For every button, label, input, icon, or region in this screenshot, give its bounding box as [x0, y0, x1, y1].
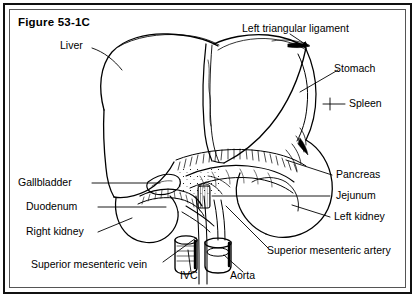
label-liver: Liver: [60, 40, 83, 51]
label-left-triangular-ligament: Left triangular ligament: [242, 23, 349, 34]
label-gallbladder: Gallbladder: [18, 177, 72, 188]
label-left-kidney: Left kidney: [334, 211, 385, 222]
label-duodenum: Duodenum: [26, 201, 77, 212]
label-right-kidney: Right kidney: [26, 226, 84, 237]
label-jejunum: Jejunum: [336, 190, 376, 201]
label-spleen: Spleen: [349, 98, 382, 109]
figure-panel: Figure 53-1C: [0, 0, 417, 299]
label-stomach: Stomach: [334, 63, 375, 74]
label-pancreas: Pancreas: [336, 169, 380, 180]
label-ivc: IVC: [180, 270, 198, 281]
label-superior-mesenteric-artery: Superior mesenteric artery: [267, 245, 391, 256]
label-superior-mesenteric-vein: Superior mesenteric vein: [31, 259, 147, 270]
label-aorta: Aorta: [230, 270, 255, 281]
